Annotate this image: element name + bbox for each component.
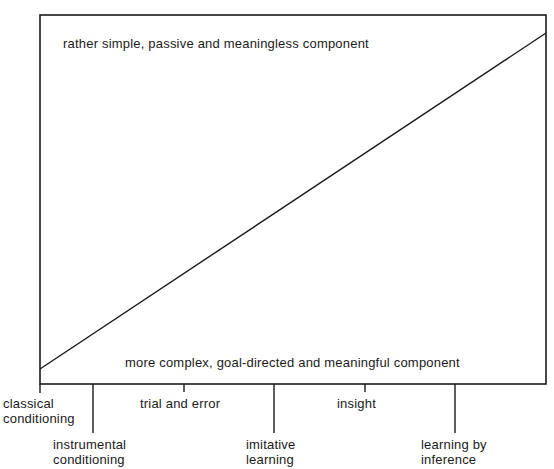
- label-learning-by-inference: learning by inference: [421, 437, 487, 467]
- label-line: imitative: [246, 437, 295, 452]
- label-line: conditioning: [3, 411, 75, 426]
- label-line: instrumental: [53, 437, 126, 452]
- label-trial-and-error: trial and error: [140, 396, 220, 411]
- label-line: classical: [3, 396, 75, 411]
- label-line: insight: [337, 396, 376, 411]
- bottom-component-label: more complex, goal-directed and meaningf…: [125, 355, 460, 370]
- frame-box: [40, 15, 546, 384]
- label-line: conditioning: [53, 452, 126, 467]
- label-line: learning: [246, 452, 295, 467]
- label-imitative-learning: imitative learning: [246, 437, 295, 467]
- label-insight: insight: [337, 396, 376, 411]
- diagram-canvas: [0, 0, 554, 469]
- label-line: trial and error: [140, 396, 220, 411]
- label-instrumental-conditioning: instrumental conditioning: [53, 437, 126, 467]
- label-classical-conditioning: classical conditioning: [3, 396, 75, 426]
- label-line: inference: [421, 452, 487, 467]
- diagonal-divider: [40, 33, 546, 369]
- top-component-label: rather simple, passive and meaningless c…: [63, 36, 369, 51]
- label-line: learning by: [421, 437, 487, 452]
